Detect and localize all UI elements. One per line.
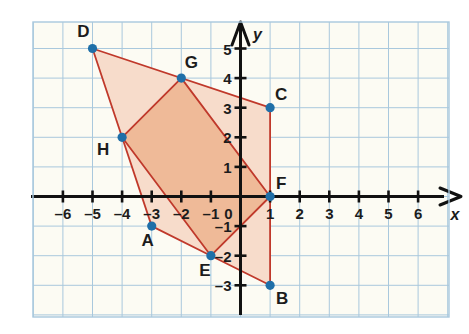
coordinate-plane-figure: –6–5–4–3–2–112345654321–1–2–30xyABCDEFGH <box>0 0 469 334</box>
data-point-B[interactable] <box>266 281 275 290</box>
point-label-D: D <box>77 22 89 41</box>
y-tick-label: 5 <box>223 41 231 58</box>
point-label-E: E <box>199 261 210 280</box>
y-tick-label: 3 <box>223 100 231 117</box>
x-tick-label: 2 <box>296 205 304 222</box>
origin-label: 0 <box>224 205 232 222</box>
data-point-H[interactable] <box>118 133 127 142</box>
point-label-H: H <box>97 140 109 159</box>
x-tick-label: –2 <box>173 205 190 222</box>
y-tick-label: 1 <box>223 159 231 176</box>
x-tick-label: 6 <box>414 205 422 222</box>
x-tick-label: –4 <box>114 205 131 222</box>
x-tick-label: –6 <box>55 205 72 222</box>
point-label-G: G <box>185 53 198 72</box>
y-tick-label: –2 <box>215 248 232 265</box>
data-point-G[interactable] <box>177 74 186 83</box>
coordinate-grid-svg: –6–5–4–3–2–112345654321–1–2–30xyABCDEFGH <box>0 0 469 334</box>
x-tick-label: 3 <box>325 205 333 222</box>
data-point-F[interactable] <box>266 192 275 201</box>
point-label-F: F <box>276 174 286 193</box>
point-label-A: A <box>142 231 154 250</box>
y-axis-label: y <box>252 26 263 43</box>
x-axis-label: x <box>450 206 461 223</box>
x-tick-label: 5 <box>384 205 392 222</box>
x-tick-label: –5 <box>84 205 101 222</box>
y-tick-label: 2 <box>223 129 231 146</box>
x-tick-label: –3 <box>143 205 160 222</box>
point-label-B: B <box>276 289 288 308</box>
data-point-E[interactable] <box>206 251 215 260</box>
data-point-A[interactable] <box>147 222 156 231</box>
x-tick-label: 1 <box>266 205 274 222</box>
y-tick-label: –3 <box>215 277 232 294</box>
point-label-C: C <box>275 85 287 104</box>
data-point-C[interactable] <box>266 103 275 112</box>
x-tick-label: 4 <box>355 205 364 222</box>
y-tick-label: 4 <box>223 70 232 87</box>
data-point-D[interactable] <box>88 44 97 53</box>
